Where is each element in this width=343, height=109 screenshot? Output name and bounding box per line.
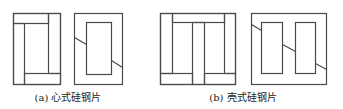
lamination-piece xyxy=(296,23,316,74)
lamination-piece xyxy=(193,23,205,85)
shell-type-lamination-layer-2 xyxy=(252,14,327,85)
lamination-piece xyxy=(161,14,173,74)
lamination-piece xyxy=(161,74,193,85)
core-type-lamination-layer-1 xyxy=(14,14,61,85)
diagonal-joint-line xyxy=(252,25,262,31)
lamination-piece xyxy=(14,14,49,24)
diagonal-joint-line xyxy=(283,45,296,52)
caption-shell-type: (b) 壳式硅钢片 xyxy=(209,92,276,104)
lamination-piece xyxy=(225,14,236,74)
diagonal-joint-line xyxy=(112,61,123,68)
core-type-lamination-layer-2 xyxy=(75,14,123,85)
lamination-piece xyxy=(87,23,112,75)
diagonal-joint-line xyxy=(75,38,87,45)
diagonal-joint-line xyxy=(316,64,327,70)
lamination-piece xyxy=(173,14,225,23)
lamination-piece xyxy=(205,74,236,85)
caption-core-type: (a) 心式硅钢片 xyxy=(35,92,102,104)
lamination-piece xyxy=(49,14,61,74)
shell-type-lamination-layer-1 xyxy=(161,14,236,85)
lamination-piece xyxy=(262,23,283,74)
lamination-piece xyxy=(25,74,61,85)
lamination-piece xyxy=(14,24,25,85)
lamination-outline xyxy=(75,14,123,85)
